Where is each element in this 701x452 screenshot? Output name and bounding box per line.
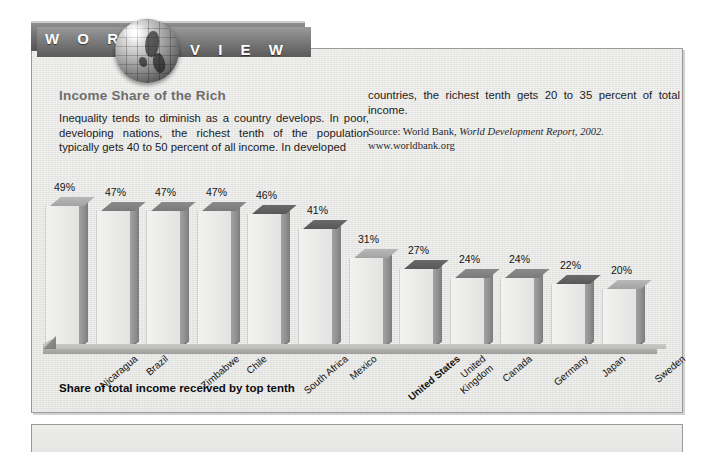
source-prefix: Source: World Bank, <box>368 126 459 137</box>
bar[interactable] <box>45 206 79 347</box>
bar[interactable] <box>247 214 281 347</box>
bar-value-label: 47% <box>206 186 227 198</box>
bar-front-face <box>602 289 637 347</box>
bar-value-label: 27% <box>408 244 429 256</box>
figure-source: Source: World Bank, World Development Re… <box>368 125 688 152</box>
globe-icon <box>115 19 179 83</box>
bar-side-face <box>79 198 88 347</box>
bar-front-face <box>450 278 485 347</box>
bar[interactable] <box>399 269 433 347</box>
bar[interactable] <box>450 278 484 347</box>
bar-value-label: 20% <box>611 264 632 276</box>
bar-front-face <box>551 284 586 347</box>
bar-top-face <box>101 202 146 211</box>
bar-top-face <box>556 275 601 284</box>
bar[interactable] <box>349 258 383 347</box>
figure-page: W O R L D V I E W Income Share of the Ri… <box>0 0 701 452</box>
bar-value-label: 47% <box>105 186 126 198</box>
bar-side-face <box>332 221 341 347</box>
bar-side-face <box>636 281 645 347</box>
bar-side-face <box>231 203 240 347</box>
figure-body-right: countries, the richest tenth gets 20 to … <box>368 88 680 117</box>
bar-front-face <box>247 214 282 347</box>
bar-front-face <box>146 211 181 347</box>
bar[interactable] <box>500 278 534 347</box>
bar-top-face <box>354 249 399 258</box>
bar-value-label: 49% <box>54 181 75 193</box>
bar-side-face <box>383 250 392 347</box>
bar-top-face <box>607 280 652 289</box>
bar-top-face <box>404 260 449 269</box>
bar-front-face <box>349 258 384 347</box>
bar-side-face <box>180 203 189 347</box>
bar-top-face <box>303 220 348 229</box>
secondary-panel <box>31 424 683 452</box>
bar-side-face <box>433 261 442 347</box>
bar-value-label: 46% <box>256 189 277 201</box>
bar-value-label: 24% <box>509 253 530 265</box>
bar[interactable] <box>197 211 231 347</box>
figure-panel: Income Share of the Rich Inequality tend… <box>31 48 683 413</box>
figure-caption: Share of total income received by top te… <box>59 382 295 394</box>
bar-front-face <box>298 229 333 347</box>
bar-side-face <box>585 276 594 347</box>
figure-title: Income Share of the Rich <box>59 88 226 103</box>
bar-side-face <box>484 270 493 347</box>
bar-top-face <box>50 197 95 206</box>
bar[interactable] <box>96 211 130 347</box>
bar-front-face <box>399 269 434 347</box>
bar[interactable] <box>146 211 180 347</box>
bar-front-face <box>197 211 232 347</box>
bar-top-face <box>455 269 500 278</box>
banner-view-text: V I E W <box>190 41 290 58</box>
bar-side-face <box>534 270 543 347</box>
globe-highlight <box>124 24 148 42</box>
bar-value-label: 47% <box>155 186 176 198</box>
bar-front-face <box>500 278 535 347</box>
globe-landmass <box>139 57 147 67</box>
bar-front-face <box>45 206 80 347</box>
bar-side-face <box>281 206 290 347</box>
source-url: www.worldbank.org <box>368 140 455 151</box>
bar-chart: 49%47%47%47%46%41%31%27%24%24%22%20% Nic… <box>32 167 684 375</box>
bar-side-face <box>130 203 139 347</box>
bar-top-face <box>202 202 247 211</box>
bar[interactable] <box>602 289 636 347</box>
figure-body-left: Inequality tends to diminish as a countr… <box>59 111 369 155</box>
bar-top-face <box>151 202 196 211</box>
world-view-banner: W O R L D V I E W <box>31 21 305 55</box>
bar-top-face <box>505 269 550 278</box>
bar-front-face <box>96 211 131 347</box>
bar-value-label: 22% <box>560 259 581 271</box>
bar-value-label: 31% <box>358 233 379 245</box>
source-title: World Development Report, 2002. <box>459 126 604 137</box>
bar-value-label: 41% <box>307 204 328 216</box>
bar[interactable] <box>551 284 585 347</box>
bar-value-label: 24% <box>459 253 480 265</box>
bar-top-face <box>252 205 297 214</box>
bar[interactable] <box>298 229 332 347</box>
chart-floor-front <box>43 349 657 354</box>
